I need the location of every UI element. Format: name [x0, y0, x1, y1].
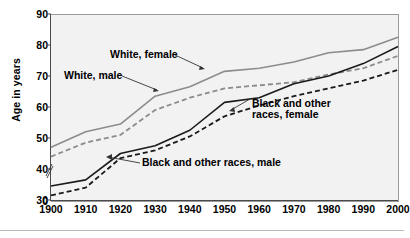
- x-axis-tick-labels: 1900191019201930194019501960197019801990…: [50, 203, 398, 219]
- x-tick-1900: 1900: [39, 203, 62, 215]
- annotation-black-female-line2: races, female: [252, 109, 319, 121]
- x-tick-1970: 1970: [282, 203, 305, 215]
- x-tick-2000: 2000: [386, 203, 409, 215]
- x-tick-1990: 1990: [352, 203, 375, 215]
- series-line-0: [51, 37, 398, 147]
- annotation-black-male: Black and other races, male: [142, 157, 281, 169]
- data-series-group: [51, 37, 398, 195]
- x-tick-1980: 1980: [317, 203, 340, 215]
- x-tick-1950: 1950: [213, 203, 236, 215]
- footer-divider: [0, 230, 404, 231]
- axis-ticks: [46, 14, 398, 201]
- x-tick-1910: 1910: [74, 203, 97, 215]
- x-tick-1960: 1960: [248, 203, 271, 215]
- x-tick-1920: 1920: [109, 203, 132, 215]
- annotation-white-female: White, female: [110, 49, 178, 61]
- annotation-white-male: White, male: [64, 70, 122, 82]
- x-tick-1940: 1940: [178, 203, 201, 215]
- x-tick-1930: 1930: [143, 203, 166, 215]
